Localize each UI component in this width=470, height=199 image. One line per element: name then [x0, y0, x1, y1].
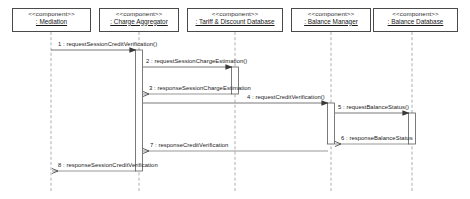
participant-name: : Balance Manager	[292, 19, 370, 26]
message-label-2: 2 : requestSessionChargeEstimation()	[146, 58, 247, 64]
participant-box-charge-aggregator[interactable]: <<component>>: Charge Aggregator	[99, 8, 179, 32]
participant-stereotype: <<component>>	[188, 11, 282, 18]
participant-box-balance-database[interactable]: <<component>>: Balance Database	[373, 8, 458, 32]
participant-stereotype: <<component>>	[13, 11, 90, 18]
message-label-4: 4 : requestCreditVerification()	[247, 94, 325, 100]
activation-bar-charge-aggregator	[136, 50, 143, 171]
activation-bar-balance-manager	[328, 103, 335, 144]
message-label-3: 3 : responseSessionChargeEstimation	[149, 85, 251, 91]
participant-name: : Balance Database	[374, 19, 457, 26]
participant-stereotype: <<component>>	[374, 11, 457, 18]
message-label-7: 7 : responseCreditVerification	[150, 142, 228, 148]
participant-stereotype: <<component>>	[292, 11, 370, 18]
participant-stereotype: <<component>>	[100, 11, 178, 18]
participant-name: : Charge Aggregator	[100, 19, 178, 26]
participant-box-mediation[interactable]: <<component>>: Mediation	[12, 8, 91, 32]
message-arrows-group	[51, 50, 409, 171]
participant-name: : Tariff & Discount Database	[188, 19, 282, 26]
message-label-8: 8 : responseSessionCreditVerification	[58, 162, 158, 168]
message-label-1: 1 : requestSessionCreditVerification()	[58, 41, 157, 47]
message-label-5: 5 : requestBalanceStatus()	[338, 104, 409, 110]
activation-bars-group	[136, 50, 416, 171]
participant-box-tariff-discount-database[interactable]: <<component>>: Tariff & Discount Databas…	[187, 8, 283, 32]
message-label-6: 6 : responseBalanceStatus	[341, 135, 413, 141]
participant-name: : Mediation	[13, 19, 90, 26]
participant-box-balance-manager[interactable]: <<component>>: Balance Manager	[291, 8, 371, 32]
uml-sequence-diagram: <<component>>: Mediation<<component>>: C…	[0, 0, 470, 199]
